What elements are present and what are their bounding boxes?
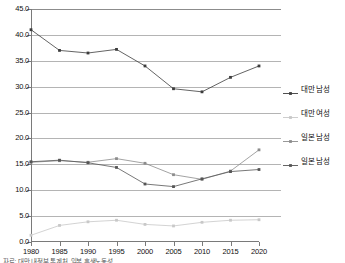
data-point-marker — [229, 219, 232, 222]
legend-marker-icon — [283, 132, 298, 141]
line-chart: 0.05.010.015.020.025.030.035.040.045.0 1… — [0, 0, 345, 263]
series-line — [31, 220, 259, 236]
legend-label: 일본 남성 — [301, 155, 330, 166]
data-point-marker — [258, 65, 261, 68]
x-axis-tick — [174, 242, 175, 246]
source-caption: 자료: 대만 내정부 통계처, 일본 후생노동성 — [3, 256, 113, 263]
series-line — [31, 30, 259, 92]
legend-item-1[interactable]: 대만 남성 — [283, 76, 345, 100]
series-3 — [30, 148, 261, 180]
y-axis-label: 45.0 — [0, 4, 29, 13]
chart-legend: 대만 남성대만 여성일본 남성일본 남성 — [283, 76, 345, 172]
data-point-marker — [115, 48, 118, 51]
x-axis-tick — [259, 242, 260, 246]
series-2 — [30, 218, 261, 236]
x-axis-label: 2000 — [137, 247, 153, 256]
x-axis-tick — [117, 242, 118, 246]
y-axis-label: 35.0 — [0, 56, 29, 65]
y-axis-label: 30.0 — [0, 82, 29, 91]
data-point-marker — [87, 220, 90, 223]
data-point-marker — [144, 183, 147, 186]
data-point-marker — [87, 52, 90, 55]
legend-item-4[interactable]: 일본 남성 — [283, 148, 345, 172]
data-point-marker — [30, 28, 33, 31]
x-axis-tick — [88, 242, 89, 246]
data-point-marker — [201, 90, 204, 93]
data-point-marker — [115, 219, 118, 222]
legend-marker-icon — [283, 156, 298, 165]
data-point-marker — [258, 148, 261, 151]
data-point-marker — [58, 224, 61, 227]
data-point-marker — [58, 49, 61, 52]
legend-label: 대만 여성 — [301, 107, 330, 118]
data-point-marker — [229, 170, 232, 173]
data-point-marker — [58, 159, 61, 162]
y-axis-label: 15.0 — [0, 159, 29, 168]
y-axis-label: 20.0 — [0, 133, 29, 142]
x-axis-label: 2015 — [223, 247, 239, 256]
x-axis-tick — [202, 242, 203, 246]
data-point-marker — [30, 234, 33, 237]
legend-label: 일본 남성 — [301, 131, 330, 142]
legend-label: 대만 남성 — [301, 83, 330, 94]
x-axis-label: 1980 — [23, 247, 39, 256]
series-container — [31, 9, 259, 242]
legend-item-3[interactable]: 일본 남성 — [283, 124, 345, 148]
data-point-marker — [30, 160, 33, 163]
data-point-marker — [115, 157, 118, 160]
x-axis-label: 2010 — [194, 247, 210, 256]
data-point-marker — [229, 76, 232, 79]
data-point-marker — [258, 168, 261, 171]
data-point-marker — [144, 65, 147, 68]
legend-marker-icon — [283, 108, 298, 117]
y-axis-label: 5.0 — [0, 211, 29, 220]
legend-marker-icon — [283, 84, 298, 93]
x-axis-tick — [231, 242, 232, 246]
data-point-marker — [87, 161, 90, 164]
x-axis-label: 2020 — [251, 247, 267, 256]
data-point-marker — [172, 185, 175, 188]
data-point-marker — [144, 162, 147, 165]
x-axis-tick — [60, 242, 61, 246]
x-axis-label: 1995 — [109, 247, 125, 256]
data-point-marker — [201, 221, 204, 224]
legend-item-2[interactable]: 대만 여성 — [283, 100, 345, 124]
y-axis-label: 10.0 — [0, 185, 29, 194]
y-axis-label: 0.0 — [0, 237, 29, 246]
y-axis-label: 40.0 — [0, 30, 29, 39]
data-point-marker — [172, 173, 175, 176]
x-axis-label: 1985 — [52, 247, 68, 256]
data-point-marker — [201, 177, 204, 180]
data-point-marker — [144, 223, 147, 226]
y-axis-label: 25.0 — [0, 108, 29, 117]
data-point-marker — [172, 225, 175, 228]
data-point-marker — [115, 166, 118, 169]
series-1 — [30, 28, 261, 93]
data-point-marker — [172, 87, 175, 90]
x-axis-tick — [31, 242, 32, 246]
x-axis-label: 1990 — [80, 247, 96, 256]
x-axis-tick — [145, 242, 146, 246]
x-axis-label: 2005 — [166, 247, 182, 256]
data-point-marker — [258, 218, 261, 221]
